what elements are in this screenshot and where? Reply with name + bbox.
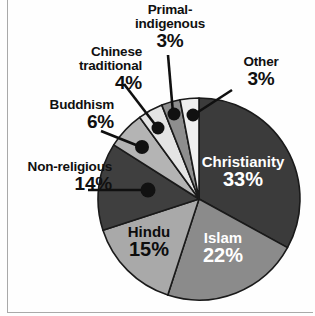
slice-label-primal-indigenous-line2: indigenous xyxy=(128,17,212,31)
slice-label-buddhism: Buddhism 6% xyxy=(30,98,114,131)
pie-svg xyxy=(96,96,302,302)
slice-label-chinese-traditional: Chinese traditional 4% xyxy=(58,45,142,92)
slice-value-hindu: 15% xyxy=(114,239,184,259)
slice-label-islam-line1: Islam xyxy=(186,230,260,245)
slice-label-other: Other 3% xyxy=(230,55,292,88)
slice-label-christianity-line1: Christianity xyxy=(189,154,297,169)
pie-chart-figure: Primal- indigenous 3% Chinese traditiona… xyxy=(0,0,315,316)
slice-label-chinese-traditional-line1: Chinese xyxy=(58,45,142,59)
slice-value-christianity: 33% xyxy=(189,169,297,189)
slice-value-other: 3% xyxy=(230,69,292,88)
slice-value-chinese-traditional: 4% xyxy=(58,73,142,92)
slice-label-islam: Islam 22% xyxy=(186,230,260,266)
pie-slices xyxy=(98,98,300,300)
slice-value-islam: 22% xyxy=(186,245,260,265)
slice-label-hindu-line1: Hindu xyxy=(114,224,184,239)
pie-chart xyxy=(96,96,302,302)
frame-rule-left xyxy=(7,0,8,313)
slice-label-buddhism-line1: Buddhism xyxy=(30,98,114,112)
slice-label-christianity: Christianity 33% xyxy=(189,154,297,190)
slice-label-other-line1: Other xyxy=(230,55,292,69)
slice-label-hindu: Hindu 15% xyxy=(114,224,184,260)
slice-label-primal-indigenous-line1: Primal- xyxy=(128,3,212,17)
slice-label-non-religious-line1: Non-religious xyxy=(8,160,112,174)
slice-value-buddhism: 6% xyxy=(30,112,114,131)
slice-label-non-religious: Non-religious 14% xyxy=(8,160,112,193)
slice-value-non-religious: 14% xyxy=(8,174,112,193)
frame-rule-bottom xyxy=(7,312,313,313)
slice-label-primal-indigenous: Primal- indigenous 3% xyxy=(128,3,212,50)
slice-label-chinese-traditional-line2: traditional xyxy=(58,59,142,73)
